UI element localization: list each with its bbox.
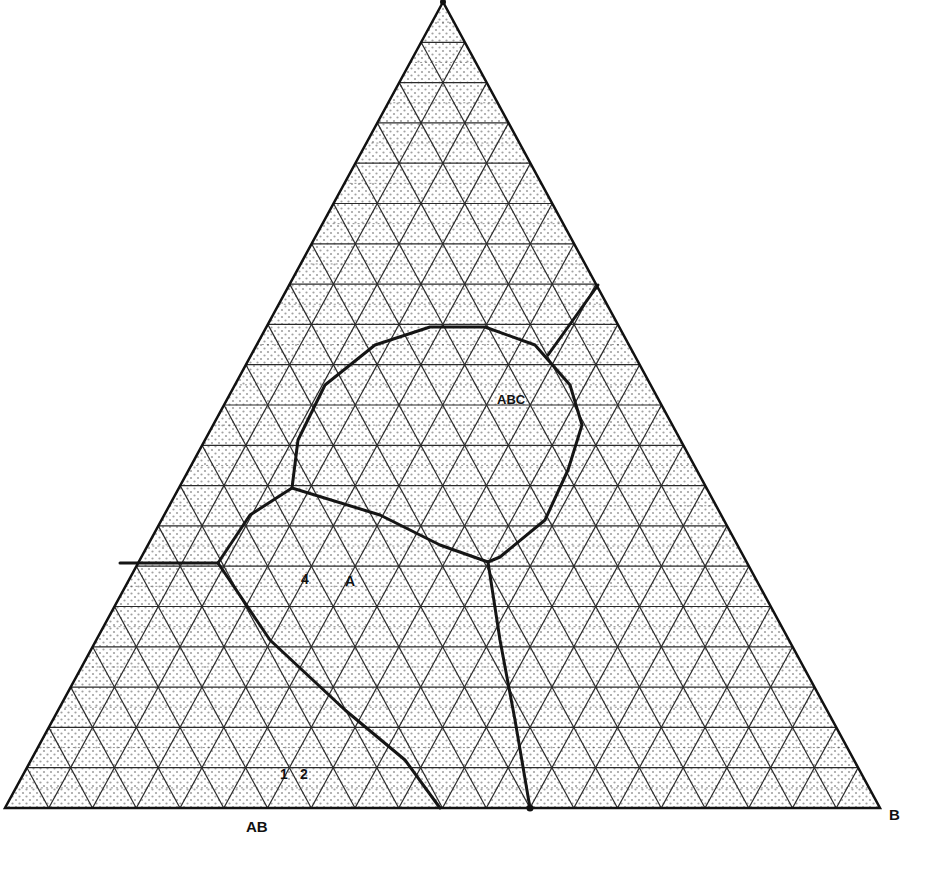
field-label-4: 4 (301, 571, 309, 587)
field-label-abc: ABC (497, 392, 525, 407)
point-marker-bottom (527, 805, 534, 812)
field-label-a: A (345, 573, 355, 589)
field-label-1: 1 (280, 766, 288, 782)
ternary-diagram (0, 0, 927, 880)
field-label-2: 2 (300, 766, 308, 782)
vertex-label-b: B (889, 806, 900, 823)
vertex-label-ab: AB (246, 818, 268, 835)
